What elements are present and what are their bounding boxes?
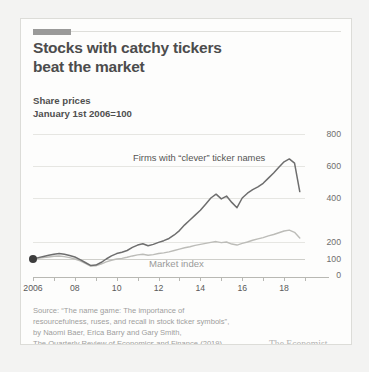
page-title: Stocks with catchy tickers beat the mark… [33,39,333,77]
x-tick-2018 [284,277,285,281]
x-tick-2008 [75,277,76,281]
x-tick-2014 [200,277,201,281]
series-start-marker [29,255,37,263]
source-note: Source: “The name game: The importance o… [33,305,283,345]
y-tick-label-400: 400 [313,194,341,203]
annotation-clever-series: Firms with “clever” ticker names [133,152,265,163]
y-tick-label-800: 800 [313,130,341,139]
x-tick-2019 [305,277,306,281]
x-tick-2012 [159,277,160,281]
x-tick-2006 [33,277,34,281]
x-tick-label-08: 08 [70,283,80,293]
x-tick-2017 [263,277,264,281]
x-tick-label-10: 10 [112,283,122,293]
x-tick-label-2006: 2006 [23,283,42,293]
title-line-1: Stocks with catchy tickers [33,39,333,58]
y-tick-label-200: 200 [313,238,341,247]
x-tick-2009 [96,277,97,281]
source-line-2: resourcefulness, ruses, and recall in st… [33,316,283,327]
x-tick-2011 [138,277,139,281]
title-line-2: beat the market [33,58,333,77]
chart-plot-area: 800 600 400 200 100 0 Firms with “clever… [33,115,341,280]
header-rule [33,31,341,32]
x-tick-2013 [179,277,180,281]
source-line-4: The Quarterly Review of Economics and Fi… [33,338,283,345]
chart-x-axis: 2006081012141618 [33,277,341,299]
subtitle-line-1: Share prices [33,95,263,108]
x-tick-label-16: 16 [237,283,247,293]
chart-card: Stocks with catchy tickers beat the mark… [20,18,352,345]
chart-series-svg [33,115,305,275]
x-tick-2007 [54,277,55,281]
x-tick-label-12: 12 [154,283,164,293]
source-line-3: by Naomi Baer, Erica Barry and Gary Smit… [33,327,283,338]
annotation-market-index: Market index [149,258,204,269]
y-tick-label-600: 600 [313,162,341,171]
x-tick-2016 [242,277,243,281]
x-tick-label-14: 14 [196,283,206,293]
source-line-1: Source: “The name game: The importance o… [33,305,283,316]
y-tick-label-100: 100 [313,255,341,264]
x-tick-label-18: 18 [279,283,289,293]
x-tick-2015 [221,277,222,281]
economist-logo: The Economist [269,338,327,345]
x-tick-2010 [117,277,118,281]
brand-accent-bar [33,29,71,35]
